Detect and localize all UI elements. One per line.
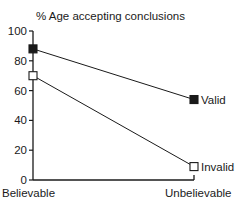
y-tick-label: 0 xyxy=(21,174,27,186)
data-marker xyxy=(190,96,198,104)
series-label-valid: Valid xyxy=(201,94,226,106)
data-marker xyxy=(29,45,37,53)
y-tick-label: 40 xyxy=(14,114,27,126)
chart-title: % Age accepting conclusions xyxy=(36,10,185,22)
data-marker xyxy=(29,72,37,80)
y-tick-label: 100 xyxy=(8,25,27,37)
series-group: ValidInvalid xyxy=(29,45,234,173)
data-marker xyxy=(190,163,198,171)
series-line-valid xyxy=(33,49,194,100)
x-label-believable: Believable xyxy=(2,187,55,199)
x-label-unbelievable: Unbelievable xyxy=(165,187,232,199)
series-label-invalid: Invalid xyxy=(201,161,234,173)
y-tick-label: 80 xyxy=(14,55,27,67)
series-line-invalid xyxy=(33,76,194,167)
chart: % Age accepting conclusions 020406080100… xyxy=(0,0,242,209)
y-tick-label: 20 xyxy=(14,144,27,156)
y-tick-label: 60 xyxy=(14,85,27,97)
